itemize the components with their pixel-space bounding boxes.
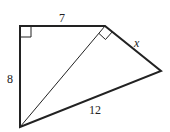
label-bottom-side: 12 [89, 103, 101, 117]
label-left-side: 8 [7, 72, 13, 86]
label-top-side: 7 [59, 11, 65, 25]
right-angle-marker-top-right [99, 32, 113, 40]
right-angle-marker-top-left [20, 26, 31, 37]
label-x-side: x [133, 36, 140, 50]
geometry-diagram: 7 8 x 12 [0, 0, 170, 132]
